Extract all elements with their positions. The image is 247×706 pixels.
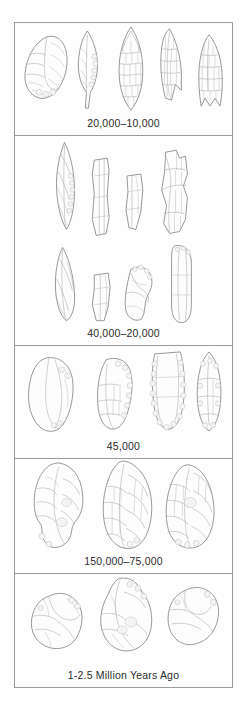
artifact-burin-core <box>162 150 188 233</box>
artifact-row-45000 <box>15 346 232 438</box>
artifact-row-20000-10000 <box>15 23 232 115</box>
artifact-truncated-blade <box>126 174 143 229</box>
panel-1-2-5-million: 1-2.5 Million Years Ago <box>15 574 232 687</box>
artifact-leaf-point-bifacial <box>78 31 98 108</box>
artifact-row-40000-20000 <box>15 136 232 325</box>
artifact-fishtail-stemmed-point <box>198 35 222 106</box>
artifact-chronology-figure: 20,000–10,000 <box>14 22 233 688</box>
panel-caption: 150,000–75,000 <box>15 555 232 573</box>
artifact-retouched-flake-scraper <box>25 36 67 98</box>
panel-45000: 45,000 <box>15 346 232 459</box>
panel-caption: 45,000 <box>15 440 232 458</box>
artifact-rectangular-blade-fragment <box>92 273 110 321</box>
artifact-oldowan-chopper-core <box>31 593 82 648</box>
panel-20000-10000: 20,000–10,000 <box>15 23 232 136</box>
artifact-cordiform-handaxe <box>166 465 214 548</box>
artifact-shouldered-point <box>161 29 182 100</box>
artifact-oldowan-core-tool <box>101 578 152 651</box>
artifact-row-1-2-5-million <box>15 574 232 667</box>
artifact-levallois-flake <box>29 358 74 432</box>
artifact-acheulean-handaxe-tanged <box>34 463 83 548</box>
artifact-row-150000-75000 <box>15 459 232 553</box>
artifact-ovate-handaxe <box>103 461 152 549</box>
panel-caption: 1-2.5 Million Years Ago <box>15 669 232 687</box>
panel-caption: 20,000–10,000 <box>15 117 232 135</box>
artifact-denticulate-flake <box>150 352 186 430</box>
artifact-laurel-leaf-biface <box>119 27 143 110</box>
artifact-mousterian-point <box>197 352 221 431</box>
artifact-oldowan-cobble-core <box>168 587 219 644</box>
panel-40000-20000: 40,000–20,000 <box>15 136 232 346</box>
panel-caption: 40,000–20,000 <box>15 327 232 345</box>
panel-150000-75000: 150,000–75,000 <box>15 459 232 574</box>
artifact-elongated-blade <box>172 245 192 322</box>
artifact-side-scraper <box>98 358 133 429</box>
artifact-prismatic-blade <box>92 158 109 235</box>
artifact-pointed-blade <box>55 247 74 320</box>
artifact-notched-flake <box>125 265 152 320</box>
artifact-backed-blade <box>56 142 74 229</box>
